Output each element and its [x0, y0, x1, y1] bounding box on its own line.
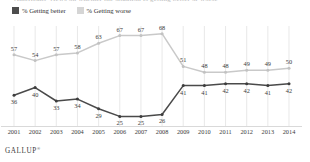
data-label-getting-worse-2013: 49	[265, 60, 271, 67]
data-label-getting-worse-2009: 51	[180, 56, 186, 63]
x-axis-label-2003: 2003	[50, 128, 63, 135]
x-axis-label-2011: 2011	[219, 128, 231, 135]
data-label-getting-better-2005: 29	[95, 112, 101, 119]
x-axis-label-2002: 2002	[29, 128, 42, 135]
data-label-getting-worse-2003: 57	[53, 45, 59, 52]
x-axis-label-2014: 2014	[283, 128, 296, 135]
x-axis-label-2010: 2010	[198, 128, 211, 135]
registered-mark: ®	[37, 146, 41, 151]
data-label-getting-better-2012: 42	[244, 87, 250, 94]
data-label-getting-better-2003: 33	[53, 104, 59, 111]
data-label-getting-better-2011: 42	[222, 87, 228, 94]
x-axis-label-2008: 2008	[156, 128, 169, 135]
data-label-getting-better-2002: 40	[32, 91, 38, 98]
data-label-getting-better-2013: 41	[265, 89, 271, 96]
data-label-getting-worse-2012: 49	[244, 60, 250, 67]
data-label-getting-better-2006: 25	[117, 119, 123, 126]
data-label-getting-better-2009: 41	[180, 89, 186, 96]
data-label-getting-better-2010: 41	[201, 89, 207, 96]
data-label-getting-worse-2005: 63	[95, 33, 101, 40]
data-label-getting-better-2014: 42	[286, 87, 292, 94]
x-axis-year-labels: 2001200220032004200520062007200820092010…	[0, 128, 310, 140]
x-axis-label-2007: 2007	[135, 128, 148, 135]
x-axis-label-2009: 2009	[177, 128, 190, 135]
x-axis-label-2005: 2005	[92, 128, 105, 135]
data-label-getting-better-2001: 36	[11, 98, 17, 105]
data-label-getting-worse-2011: 48	[222, 62, 228, 69]
gallup-wordmark: GALLUP	[5, 147, 37, 155]
data-label-getting-better-2008: 26	[159, 117, 165, 124]
data-label-getting-worse-2002: 54	[32, 51, 38, 58]
data-label-getting-worse-2014: 50	[286, 58, 292, 65]
data-label-getting-worse-2010: 48	[201, 62, 207, 69]
data-label-getting-worse-2007: 67	[138, 26, 144, 33]
x-axis-label-2012: 2012	[240, 128, 253, 135]
data-label-getting-worse-2006: 67	[117, 26, 123, 33]
gallup-logo: GALLUP®	[5, 146, 41, 155]
data-label-getting-worse-2004: 58	[74, 43, 80, 50]
data-label-getting-worse-2008: 68	[159, 24, 165, 31]
x-axis-label-2001: 2001	[8, 128, 21, 135]
data-label-getting-better-2004: 34	[74, 102, 80, 109]
x-axis-label-2013: 2013	[262, 128, 275, 135]
data-label-getting-worse-2001: 57	[11, 45, 17, 52]
x-axis-label-2006: 2006	[113, 128, 126, 135]
data-label-getting-better-2007: 25	[138, 119, 144, 126]
x-axis-label-2004: 2004	[71, 128, 84, 135]
